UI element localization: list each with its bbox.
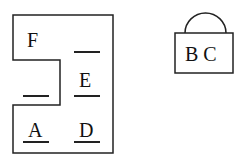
blank-under-d [74, 141, 100, 143]
blank-under-e [74, 95, 100, 97]
label-e: E [79, 70, 91, 90]
shape-outlines [0, 0, 248, 168]
blank-under-a [23, 141, 49, 143]
diagram: F E A D B C [0, 0, 248, 168]
label-a: A [28, 120, 42, 140]
label-d: D [79, 120, 93, 140]
label-bc: B C [185, 44, 217, 64]
label-f: F [27, 30, 38, 50]
blank-middle-left [23, 95, 49, 97]
right-box-dome [185, 13, 226, 33]
blank-top-right [74, 51, 100, 53]
